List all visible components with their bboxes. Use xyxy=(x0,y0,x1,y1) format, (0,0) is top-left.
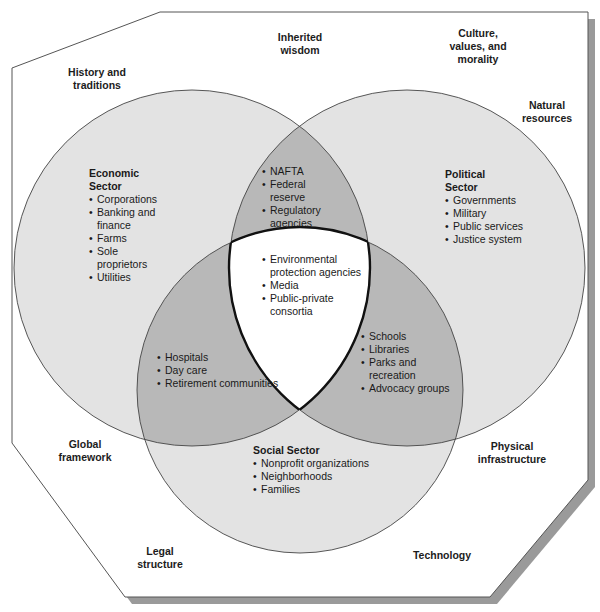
political-sector-title-line2: Sector xyxy=(445,181,545,194)
list-item: Nonprofit organizations xyxy=(253,457,383,470)
list-item: Libraries xyxy=(361,343,456,356)
list-item: Governments xyxy=(445,194,545,207)
list-item: Families xyxy=(253,483,383,496)
list-item: Hospitals xyxy=(157,351,287,364)
social-sector-block: Social Sector Nonprofit organizations Ne… xyxy=(253,444,383,496)
label-line: Physical xyxy=(452,440,572,453)
context-label-physical-infrastructure: Physical infrastructure xyxy=(452,440,572,466)
social-sector-list: Nonprofit organizations Neighborhoods Fa… xyxy=(253,457,383,496)
context-label-history-traditions: History and traditions xyxy=(42,66,152,92)
economic-political-overlap-block: NAFTA Federal reserve Regulatory agencie… xyxy=(262,165,342,230)
economic-social-overlap-block: Hospitals Day care Retirement communitie… xyxy=(157,351,287,390)
economic-sector-block: Economic Sector Corporations Banking and… xyxy=(89,167,169,284)
economic-political-list: NAFTA Federal reserve Regulatory agencie… xyxy=(262,165,342,230)
list-item: Federal reserve xyxy=(262,178,342,204)
list-item: Farms xyxy=(89,232,169,245)
list-item: Banking and finance xyxy=(89,206,159,232)
label-line: structure xyxy=(110,558,210,571)
triple-overlap-block: Environmental protection agencies Media … xyxy=(262,253,362,318)
triple-overlap-list: Environmental protection agencies Media … xyxy=(262,253,362,318)
list-item: Utilities xyxy=(89,271,169,284)
political-sector-list: Governments Military Public services Jus… xyxy=(445,194,545,246)
context-label-legal-structure: Legal structure xyxy=(110,545,210,571)
label-line: infrastructure xyxy=(452,453,572,466)
list-item: Advocacy groups xyxy=(361,382,456,395)
context-label-natural-resources: Natural resources xyxy=(497,99,597,125)
list-item: Schools xyxy=(361,330,456,343)
list-item: Public-private consortia xyxy=(262,292,342,318)
list-item: Corporations xyxy=(89,193,169,206)
label-line: values, and xyxy=(423,40,533,53)
list-item: NAFTA xyxy=(262,165,342,178)
economic-sector-title-line2: Sector xyxy=(89,180,169,193)
label-line: Inherited xyxy=(245,31,355,44)
list-item: Day care xyxy=(157,364,287,377)
context-label-global-framework: Global framework xyxy=(35,438,135,464)
political-sector-title: Political xyxy=(445,168,545,181)
context-label-technology: Technology xyxy=(392,549,492,562)
political-sector-block: Political Sector Governments Military Pu… xyxy=(445,168,545,246)
label-line: Legal xyxy=(110,545,210,558)
economic-sector-list: Corporations Banking and finance Farms S… xyxy=(89,193,169,284)
list-item: Retirement communities xyxy=(157,377,287,390)
label-line: resources xyxy=(497,112,597,125)
label-line: wisdom xyxy=(245,44,355,57)
economic-sector-title: Economic xyxy=(89,167,169,180)
context-label-culture-values-morality: Culture, values, and morality xyxy=(423,27,533,66)
list-item: Regulatory agencies xyxy=(262,204,330,230)
list-item: Media xyxy=(262,279,362,292)
list-item: Parks and recreation xyxy=(361,356,424,382)
list-item: Justice system xyxy=(445,233,545,246)
label-line: morality xyxy=(423,53,533,66)
list-item: Public services xyxy=(445,220,545,233)
label-line: framework xyxy=(35,451,135,464)
political-social-list: Schools Libraries Parks and recreation A… xyxy=(361,330,456,395)
social-sector-title: Social Sector xyxy=(253,444,383,457)
label-line: Culture, xyxy=(423,27,533,40)
political-social-overlap-block: Schools Libraries Parks and recreation A… xyxy=(361,330,456,395)
label-line: Natural xyxy=(497,99,597,112)
label-line: History and xyxy=(42,66,152,79)
list-item: Neighborhoods xyxy=(253,470,383,483)
context-label-inherited-wisdom: Inherited wisdom xyxy=(245,31,355,57)
economic-social-list: Hospitals Day care Retirement communitie… xyxy=(157,351,287,390)
label-line: Global xyxy=(35,438,135,451)
label-line: traditions xyxy=(42,79,152,92)
label-line: Technology xyxy=(392,549,492,562)
list-item: Environmental protection agencies xyxy=(262,253,362,279)
list-item: Sole proprietors xyxy=(89,245,159,271)
list-item: Military xyxy=(445,207,545,220)
